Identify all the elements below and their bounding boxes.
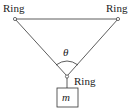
angle-arc — [56, 61, 78, 65]
top-right-ring-icon — [116, 17, 119, 20]
top-left-ring-label: Ring — [3, 2, 25, 14]
top-right-ring-label: Ring — [106, 2, 128, 14]
left-string — [15, 19, 67, 76]
bottom-ring-icon — [65, 75, 68, 78]
mass-label: m — [62, 91, 70, 103]
angle-label: θ — [63, 46, 69, 58]
rings-diagram: Ring Ring Ring θ m — [0, 0, 140, 111]
right-string — [68, 19, 119, 76]
top-left-ring-icon — [13, 17, 16, 20]
bottom-ring-label: Ring — [74, 75, 96, 87]
